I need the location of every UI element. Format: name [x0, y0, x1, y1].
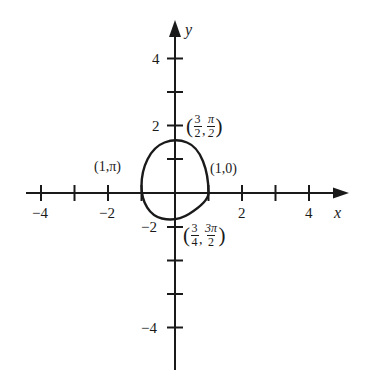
- x-axis-arrowhead-icon: [333, 188, 349, 199]
- right-point-text: (1,0): [210, 162, 237, 176]
- y-tick-label-pos2: 2: [152, 119, 160, 134]
- y-axis-label: y: [185, 22, 192, 38]
- left-point-text: (1,π): [94, 160, 121, 174]
- close-paren: ): [219, 225, 226, 246]
- bottom-r-denominator: 4: [191, 235, 199, 249]
- bottom-theta-numerator: 3π: [204, 222, 218, 235]
- x-axis-label: x: [334, 205, 341, 221]
- open-paren: (: [186, 116, 193, 137]
- y-tick-label-neg4: −4: [141, 321, 157, 336]
- x-tick-label-neg4: −4: [32, 206, 48, 221]
- polar-graph-figure: −4 −2 2 4 4 2 −2 −4 x y ( 3 2 , π 2 ) (1…: [0, 0, 365, 385]
- bottom-theta-denominator: 2: [207, 235, 215, 249]
- top-theta-fraction: π 2: [207, 113, 215, 139]
- point-label-left: (1,π): [94, 160, 121, 174]
- close-paren: ): [216, 116, 223, 137]
- open-paren: (: [183, 225, 190, 246]
- top-r-numerator: 3: [194, 113, 202, 126]
- top-theta-numerator: π: [207, 113, 215, 126]
- point-label-top: ( 3 2 , π 2 ): [186, 113, 223, 139]
- bottom-comma: ,: [199, 233, 204, 248]
- x-tick-label-pos4: 4: [305, 206, 313, 221]
- y-axis-arrowhead-icon: [169, 20, 181, 37]
- top-comma: ,: [202, 124, 207, 139]
- x-tick-label-pos2: 2: [238, 206, 246, 221]
- bottom-theta-fraction: 3π 2: [204, 222, 218, 248]
- coordinate-plane-svg: [0, 0, 365, 385]
- top-r-denominator: 2: [194, 126, 202, 140]
- top-r-fraction: 3 2: [194, 113, 202, 139]
- y-tick-label-pos4: 4: [152, 52, 160, 67]
- point-label-bottom: ( 3 4 , 3π 2 ): [183, 222, 226, 248]
- top-theta-denominator: 2: [207, 126, 215, 140]
- bottom-r-numerator: 3: [191, 222, 199, 235]
- point-label-right: (1,0): [210, 162, 237, 176]
- x-tick-label-neg2: −2: [99, 206, 115, 221]
- bottom-r-fraction: 3 4: [191, 222, 199, 248]
- y-tick-label-neg2: −2: [141, 220, 157, 235]
